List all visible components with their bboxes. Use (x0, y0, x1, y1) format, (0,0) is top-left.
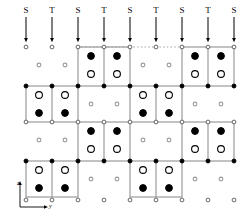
atom-small-open-48 (180, 120, 184, 124)
atom-large-open-60 (114, 146, 121, 153)
column-header-t-7: T (201, 6, 215, 15)
atom-large-open-19 (192, 71, 199, 78)
atom-small-filled-66 (102, 159, 106, 163)
atom-small-filled-27 (180, 84, 184, 88)
atom-large-open-72 (36, 167, 43, 174)
atom-small-open-4 (128, 45, 132, 49)
atom-small-gray-76 (89, 177, 93, 181)
atom-small-gray-16 (167, 63, 171, 67)
atom-large-open-59 (88, 146, 95, 153)
atom-small-filled-63 (24, 159, 28, 163)
atom-small-gray-78 (193, 177, 197, 181)
atom-large-filled-12 (218, 53, 225, 60)
atom-small-filled-29 (232, 84, 236, 88)
atom-large-open-31 (62, 92, 69, 99)
atom-large-filled-9 (88, 53, 95, 60)
atom-large-filled-83 (166, 185, 173, 192)
atom-small-open-2 (76, 45, 80, 49)
atom-large-open-74 (140, 167, 147, 174)
atom-large-open-30 (36, 92, 43, 99)
atom-small-open-89 (154, 198, 158, 202)
atom-small-filled-22 (50, 84, 54, 88)
axis-label-y: y (49, 203, 52, 209)
atom-large-open-62 (218, 146, 225, 153)
atom-small-filled-64 (50, 159, 54, 163)
atom-small-open-6 (180, 45, 184, 49)
atom-small-gray-34 (89, 102, 93, 106)
atom-small-open-92 (232, 198, 236, 202)
atom-small-open-3 (102, 45, 106, 49)
atom-small-gray-77 (115, 177, 119, 181)
axis-label-z: z (17, 180, 19, 186)
atom-large-filled-38 (36, 110, 43, 117)
atom-large-filled-10 (114, 53, 121, 60)
atom-large-filled-51 (88, 128, 95, 135)
atom-large-open-32 (140, 92, 147, 99)
atom-small-open-90 (180, 198, 184, 202)
atom-small-filled-69 (180, 159, 184, 163)
atom-small-gray-14 (63, 63, 67, 67)
lattice-canvas (0, 0, 251, 223)
lattice-diagram: STSTSTSTS z y (0, 0, 251, 223)
column-header-s-0: S (19, 6, 33, 15)
column-header-s-4: S (123, 6, 137, 15)
atom-small-open-44 (76, 120, 80, 124)
column-header-t-3: T (97, 6, 111, 15)
atom-large-filled-80 (36, 185, 43, 192)
atom-small-filled-23 (76, 84, 80, 88)
atom-small-open-42 (24, 120, 28, 124)
column-arrows (26, 17, 234, 40)
atom-small-gray-58 (167, 138, 171, 142)
atom-large-open-17 (88, 71, 95, 78)
atom-large-open-18 (114, 71, 121, 78)
atom-small-open-1 (50, 45, 54, 49)
atom-large-open-33 (166, 92, 173, 99)
atom-small-gray-57 (141, 138, 145, 142)
atom-small-filled-21 (24, 84, 28, 88)
atom-small-open-85 (50, 198, 54, 202)
atom-large-filled-54 (218, 128, 225, 135)
atom-small-gray-36 (193, 102, 197, 106)
atom-large-filled-82 (140, 185, 147, 192)
atom-small-open-87 (102, 198, 106, 202)
atom-small-gray-55 (37, 138, 41, 142)
atom-small-gray-35 (115, 102, 119, 106)
atom-small-filled-71 (232, 159, 236, 163)
atom-small-open-8 (232, 45, 236, 49)
atom-small-open-86 (76, 198, 80, 202)
column-header-s-2: S (71, 6, 85, 15)
atom-large-open-20 (218, 71, 225, 78)
atom-small-open-0 (24, 45, 28, 49)
atom-small-open-7 (206, 45, 210, 49)
atom-small-gray-56 (63, 138, 67, 142)
atom-small-filled-25 (128, 84, 132, 88)
atom-small-gray-79 (219, 177, 223, 181)
atom-small-open-5 (154, 45, 158, 49)
atom-small-open-43 (50, 120, 54, 124)
atom-small-filled-26 (154, 84, 158, 88)
atom-large-open-75 (166, 167, 173, 174)
atom-small-open-91 (206, 198, 210, 202)
atom-small-open-84 (24, 198, 28, 202)
atom-small-filled-68 (154, 159, 158, 163)
atom-small-open-47 (154, 120, 158, 124)
atom-large-filled-40 (140, 110, 147, 117)
column-header-t-5: T (149, 6, 163, 15)
atom-small-open-46 (128, 120, 132, 124)
atom-small-filled-24 (102, 84, 106, 88)
atom-small-filled-70 (206, 159, 210, 163)
atom-small-gray-15 (141, 63, 145, 67)
atom-small-gray-13 (37, 63, 41, 67)
atom-small-gray-37 (219, 102, 223, 106)
atom-large-filled-52 (114, 128, 121, 135)
atom-small-filled-28 (206, 84, 210, 88)
atom-small-open-88 (128, 198, 132, 202)
atom-large-filled-39 (62, 110, 69, 117)
column-header-s-8: S (227, 6, 241, 15)
atom-small-open-45 (102, 120, 106, 124)
atom-small-filled-67 (128, 159, 132, 163)
column-header-t-1: T (45, 6, 59, 15)
atom-large-open-61 (192, 146, 199, 153)
atom-large-open-73 (62, 167, 69, 174)
column-header-s-6: S (175, 6, 189, 15)
